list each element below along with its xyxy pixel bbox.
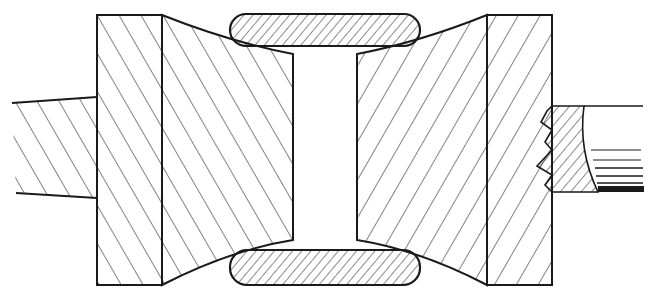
right-shaft — [537, 106, 644, 192]
left-shaft — [12, 97, 97, 198]
left-flange — [97, 15, 162, 285]
top-workpiece — [230, 14, 420, 46]
left-roll — [162, 15, 293, 285]
right-roll — [357, 15, 487, 285]
right-flange — [487, 15, 552, 285]
bottom-workpiece — [230, 250, 420, 285]
roll-cross-section-diagram — [0, 0, 659, 303]
